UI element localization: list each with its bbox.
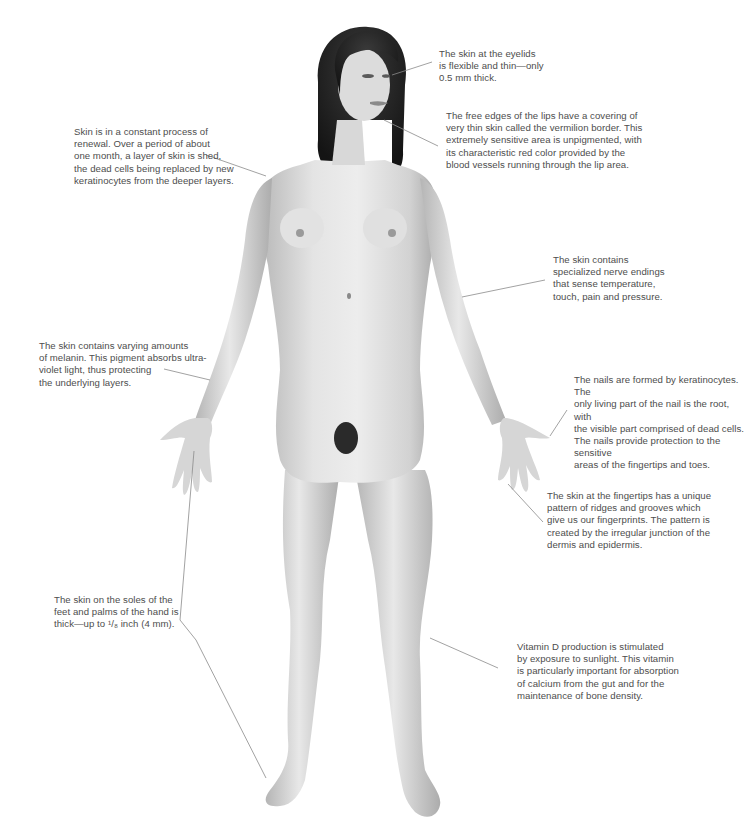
annotation-nerve-endings: The skin contains specialized nerve endi…	[553, 254, 665, 303]
neck	[332, 120, 365, 165]
left-leg	[266, 470, 340, 806]
eye	[382, 74, 390, 78]
right-leg	[355, 470, 440, 817]
annotation-eyelids: The skin at the eyelids is flexible and …	[439, 48, 544, 85]
right-arm	[420, 178, 506, 425]
annotation-nails: The nails are formed by keratinocytes. T…	[574, 374, 748, 472]
annotation-lips: The free edges of the lips have a coveri…	[446, 110, 642, 171]
annotation-vitamin-d: Vitamin D production is stimulated by ex…	[517, 641, 679, 702]
annotation-melanin: The skin contains varying amounts of mel…	[39, 340, 207, 389]
annotation-fingertips: The skin at the fingertips has a unique …	[547, 490, 711, 551]
left-hand	[160, 418, 212, 495]
right-hand	[498, 418, 550, 492]
annotation-renewal: Skin is in a constant process of renewal…	[74, 126, 234, 187]
eye	[362, 74, 374, 78]
annotation-soles-palms: The skin on the soles of the feet and pa…	[54, 594, 179, 631]
